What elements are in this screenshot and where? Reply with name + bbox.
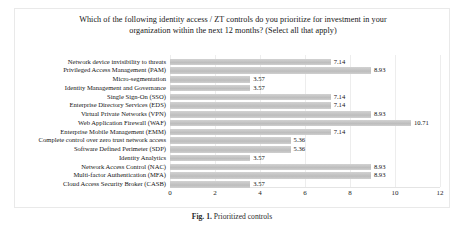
category-label: Identity Analytics (8, 154, 166, 163)
bar-row: Virtual Private Networks (VPN)8.93 (0, 110, 464, 119)
bar-value-label: 8.93 (374, 66, 386, 75)
bar-value-label: 8.93 (374, 163, 386, 172)
bar-value-label: 7.14 (334, 93, 346, 102)
bar-track: 5.36 (170, 146, 440, 152)
category-label: Identity Management and Governance (8, 84, 166, 93)
bar-track: 3.57 (170, 155, 440, 161)
category-label: Micro-segmentation (8, 75, 166, 84)
bar[interactable] (170, 181, 250, 187)
category-label: Enterprise Directory Services (EDS) (8, 101, 166, 110)
bar-row: Multi-factor Authentication (MFA)8.93 (0, 171, 464, 180)
bar-track: 3.57 (170, 181, 440, 187)
figure-caption-text: Prioritized controls (214, 212, 272, 221)
category-label: Network Access Control (NAC) (8, 163, 166, 172)
category-label: Web Application Firewall (WAF) (8, 119, 166, 128)
bar-row: Enterprise Mobile Management (EMM)7.14 (0, 128, 464, 137)
category-label: Virtual Private Networks (VPN) (8, 110, 166, 119)
bar-value-label: 7.14 (334, 101, 346, 110)
bar-value-label: 3.57 (253, 154, 265, 163)
category-label: Network device invisibility to threats (8, 58, 166, 67)
category-label: Software Defined Perimeter (SDP) (8, 145, 166, 154)
x-tick-label-4: 4 (245, 189, 275, 197)
bar[interactable] (170, 102, 331, 108)
category-label: Privileged Access Management (PAM) (8, 66, 166, 75)
x-tick-label-8: 8 (335, 189, 365, 197)
bar-value-label: 5.36 (294, 136, 306, 145)
bar-track: 5.36 (170, 137, 440, 143)
x-tick-label-10: 10 (380, 189, 410, 197)
bar-track: 7.14 (170, 59, 440, 65)
bar-track: 8.93 (170, 111, 440, 117)
bar-value-label: 3.57 (253, 75, 265, 84)
bar[interactable] (170, 59, 331, 65)
bar-track: 7.14 (170, 94, 440, 100)
bar-value-label: 3.57 (253, 84, 265, 93)
bar[interactable] (170, 120, 411, 126)
bar-row: Enterprise Directory Services (EDS)7.14 (0, 101, 464, 110)
bar[interactable] (170, 94, 331, 100)
bar-row: Cloud Access Security Broker (CASB)3.57 (0, 180, 464, 189)
bar[interactable] (170, 67, 371, 73)
x-tick-label-2: 2 (200, 189, 230, 197)
bar[interactable] (170, 155, 250, 161)
category-label: Multi-factor Authentication (MFA) (8, 171, 166, 180)
category-label: Enterprise Mobile Management (EMM) (8, 128, 166, 137)
bar-row: Single Sign-On (SSO)7.14 (0, 93, 464, 102)
bar-value-label: 10.71 (414, 119, 429, 128)
bar-row: Web Application Firewall (WAF)10.71 (0, 119, 464, 128)
bar[interactable] (170, 76, 250, 82)
bar[interactable] (170, 129, 331, 135)
bar-track: 7.14 (170, 129, 440, 135)
category-label: Cloud Access Security Broker (CASB) (8, 180, 166, 189)
bar-row: Network Access Control (NAC)8.93 (0, 163, 464, 172)
bar-value-label: 7.14 (334, 58, 346, 67)
bar[interactable] (170, 111, 371, 117)
bar[interactable] (170, 85, 250, 91)
bar-row: Identity Analytics3.57 (0, 154, 464, 163)
bar-track: 7.14 (170, 102, 440, 108)
bar-track: 3.57 (170, 85, 440, 91)
bar-row: Privileged Access Management (PAM)8.93 (0, 66, 464, 75)
figure-container: Which of the following identity access /… (0, 0, 464, 225)
bar-track: 3.57 (170, 76, 440, 82)
bar[interactable] (170, 146, 291, 152)
bar[interactable] (170, 164, 371, 170)
bar-value-label: 7.14 (334, 128, 346, 137)
bar-track: 10.71 (170, 120, 440, 126)
bar-chart-plot-area: 024681012 Network device invisibility to… (0, 0, 464, 225)
bar-row: Micro-segmentation3.57 (0, 75, 464, 84)
bar-row: Complete control over zero trust network… (0, 136, 464, 145)
bar-track: 8.93 (170, 164, 440, 170)
bar-value-label: 8.93 (374, 110, 386, 119)
bar-row: Software Defined Perimeter (SDP)5.36 (0, 145, 464, 154)
bar-value-label: 3.57 (253, 180, 265, 189)
bar-row: Identity Management and Governance3.57 (0, 84, 464, 93)
x-tick-label-0: 0 (155, 189, 185, 197)
bar[interactable] (170, 172, 371, 178)
figure-caption: Fig. 1. Prioritized controls (0, 212, 464, 222)
figure-caption-label: Fig. 1. (192, 212, 212, 221)
bar-track: 8.93 (170, 172, 440, 178)
bar[interactable] (170, 137, 291, 143)
x-tick-label-12: 12 (425, 189, 455, 197)
bar-row: Network device invisibility to threats7.… (0, 58, 464, 67)
bar-value-label: 5.36 (294, 145, 306, 154)
category-label: Single Sign-On (SSO) (8, 93, 166, 102)
category-label: Complete control over zero trust network… (8, 136, 166, 145)
bar-value-label: 8.93 (374, 171, 386, 180)
bar-track: 8.93 (170, 67, 440, 73)
x-tick-label-6: 6 (290, 189, 320, 197)
